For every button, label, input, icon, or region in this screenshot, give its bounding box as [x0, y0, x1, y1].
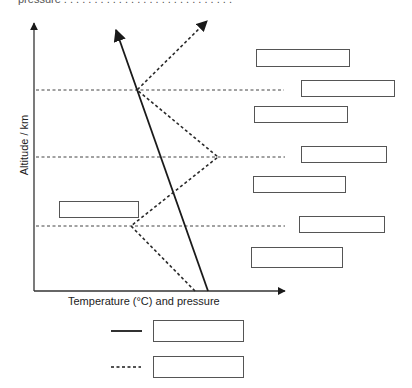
legend-solid-answer-box[interactable] [153, 320, 244, 342]
y-axis-label: Altitude / km [18, 109, 30, 181]
answer-box-6[interactable] [299, 216, 385, 233]
answer-box-2[interactable] [301, 80, 395, 97]
answer-box-left[interactable] [59, 201, 139, 218]
answer-box-1[interactable] [256, 49, 350, 67]
answer-box-5[interactable] [253, 176, 346, 193]
answer-box-7[interactable] [251, 247, 343, 268]
legend-lines [111, 331, 142, 367]
pressure-line [116, 30, 208, 291]
diagram-canvas: pressure . . . . . . . . . . . . . . . .… [0, 0, 412, 388]
x-axis-label: Temperature (°C) and pressure [68, 295, 220, 307]
temperature-line [131, 21, 218, 291]
answer-box-3[interactable] [254, 106, 348, 123]
answer-box-4[interactable] [301, 146, 387, 163]
legend-dashed-answer-box[interactable] [153, 356, 244, 378]
